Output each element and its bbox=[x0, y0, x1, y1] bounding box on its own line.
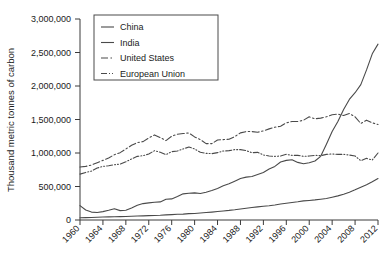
x-tick-label: 2008 bbox=[335, 223, 356, 244]
y-tick-label: 1,500,000 bbox=[31, 115, 71, 125]
line-chart: Thousand metric tonnes of carbon 0500,00… bbox=[0, 0, 384, 274]
x-tick-label: 1968 bbox=[106, 223, 127, 244]
y-axis-title: Thousand metric tonnes of carbon bbox=[5, 48, 16, 192]
y-tick-label: 500,000 bbox=[38, 182, 71, 192]
x-tick-label: 2000 bbox=[289, 223, 310, 244]
y-tick-label: 0 bbox=[66, 215, 71, 225]
y-tick-label: 3,000,000 bbox=[31, 14, 71, 24]
x-tick-label: 1984 bbox=[198, 223, 219, 244]
x-tick-label: 1960 bbox=[60, 223, 81, 244]
legend-label-european-union: European Union bbox=[120, 69, 185, 79]
series-line-united-states bbox=[80, 113, 378, 167]
x-tick-label: 1972 bbox=[129, 223, 150, 244]
y-axis-label: Thousand metric tonnes of carbon bbox=[5, 48, 16, 192]
legend: ChinaIndiaUnited StatesEuropean Union bbox=[94, 15, 218, 80]
x-tick-label: 2004 bbox=[312, 223, 333, 244]
x-tick-label: 1964 bbox=[83, 223, 104, 244]
x-tick-label: 1992 bbox=[244, 223, 265, 244]
x-tick-label: 1996 bbox=[266, 223, 287, 244]
y-tick-label: 1,000,000 bbox=[31, 148, 71, 158]
chart-container: Thousand metric tonnes of carbon 0500,00… bbox=[0, 0, 384, 274]
y-tick-label: 2,500,000 bbox=[31, 48, 71, 58]
x-tick-label: 1988 bbox=[221, 223, 242, 244]
x-tick-label: 1976 bbox=[152, 223, 173, 244]
y-tick-label: 2,000,000 bbox=[31, 81, 71, 91]
legend-label-india: India bbox=[120, 38, 140, 48]
legend-label-united-states: United States bbox=[120, 53, 175, 63]
y-axis-ticks: 0500,0001,000,0001,500,0002,000,0002,500… bbox=[31, 14, 80, 225]
legend-label-china: China bbox=[120, 22, 144, 32]
x-axis-ticks: 1960196419681972197619801984198819921996… bbox=[60, 220, 379, 245]
series-line-european-union bbox=[80, 147, 378, 174]
x-tick-label: 1980 bbox=[175, 223, 196, 244]
x-tick-label: 2012 bbox=[358, 223, 379, 244]
